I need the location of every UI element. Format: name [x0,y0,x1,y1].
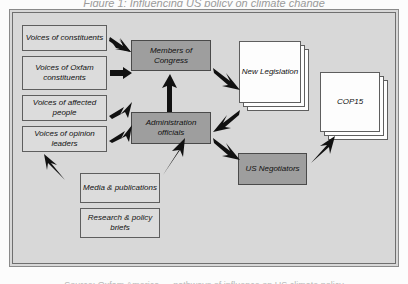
figure-caption-cropped: Source: Oxfam America — pathways of infl… [0,272,408,284]
node-label: US Negotiators [245,164,299,174]
arrow-congress-to-legislation [213,68,241,92]
node-research[interactable]: Research & policy briefs [80,208,160,238]
arrow-oxfam-to-congress [110,67,132,79]
node-voices-constituents[interactable]: Voices of constituents [22,25,107,51]
doc-label: New Legislation [242,67,298,77]
arrow-affected-to-admin [109,102,133,120]
doc-stack-new-legislation[interactable]: New Legislation [239,41,311,113]
node-label: Administration officials [134,118,208,138]
arrow-admin-to-negotiators [213,138,241,162]
doc-label: COP15 [337,97,363,107]
doc-stack-cop15[interactable]: COP15 [320,72,392,144]
node-label: Voices of Oxfam constituents [25,63,104,83]
arrow-media-to-admin [161,138,187,176]
arrow-opinion-to-admin [109,124,133,144]
doc-sheet-front: COP15 [320,72,380,132]
arrow-legislation-to-admin [213,110,241,134]
arrow-media-to-opinion [43,153,67,181]
diagram-frame: Voices of constituents Voices of Oxfam c… [9,9,399,267]
node-us-negotiators[interactable]: US Negotiators [238,153,307,185]
doc-sheet-front: New Legislation [239,41,301,103]
node-label: Media & publications [83,183,157,193]
node-voices-opinion[interactable]: Voices of opinion leaders [22,126,107,152]
node-media[interactable]: Media & publications [80,173,160,203]
arrow-admin-to-congress [162,74,178,112]
figure-canvas: Figure 1: Influencing US policy on clima… [0,0,408,284]
node-members-of-congress[interactable]: Members of Congress [131,40,211,71]
node-voices-affected[interactable]: Voices of affected people [22,95,107,121]
node-label: Research & policy briefs [83,213,157,233]
node-label: Voices of affected people [25,98,104,118]
figure-title-cropped: Figure 1: Influencing US policy on clima… [0,0,408,7]
node-label: Members of Congress [134,46,208,66]
arrow-negotiators-to-cop15 [310,136,336,164]
arrow-constituents-to-congress [109,34,133,54]
node-label: Voices of opinion leaders [25,129,104,149]
node-voices-oxfam[interactable]: Voices of Oxfam constituents [22,56,107,90]
node-label: Voices of constituents [26,33,104,43]
